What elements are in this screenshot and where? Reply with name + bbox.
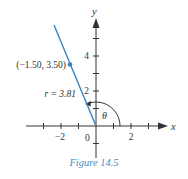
polar-coordinate-diagram: (−1.50, 3.50) r = 3.81 θ x y 0 −2 2 4 2 [0, 0, 188, 179]
figure-caption: Figure 14.5 [0, 157, 188, 168]
y-axis-label: y [91, 6, 97, 17]
x-tick-label: −2 [55, 132, 65, 142]
radius-ray [54, 25, 96, 126]
radius-label: r = 3.81 [45, 89, 76, 99]
angle-label: θ [102, 110, 107, 121]
y-tick-label: 4 [84, 51, 89, 61]
point-label: (−1.50, 3.50) [16, 60, 66, 71]
y-axis [93, 18, 100, 158]
x-axis-label: x [170, 121, 176, 132]
y-tick-label: 2 [84, 86, 89, 96]
y-axis-arrow-icon [93, 18, 100, 28]
x-axis-arrow-icon [158, 123, 168, 130]
x-axis [26, 123, 168, 130]
point-marker [68, 62, 73, 67]
x-tick-label: 2 [129, 132, 134, 142]
origin-label: 0 [85, 133, 90, 143]
